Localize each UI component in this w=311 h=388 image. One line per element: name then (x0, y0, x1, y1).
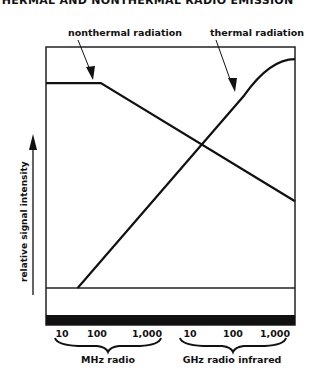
annotation-arrow-nonthermal (78, 40, 95, 80)
plot-frame (46, 47, 295, 325)
x-tick-label: 1,000 (132, 328, 162, 339)
arrowhead-icon (29, 134, 37, 150)
annotation-arrow-thermal (216, 40, 237, 92)
y-axis-label: relative signal intensity (19, 161, 29, 282)
chart: 101001,000101001,000 relative signal int… (0, 0, 311, 388)
band-brace-mhz (55, 338, 161, 352)
x-tick-label: 100 (87, 328, 107, 339)
series-thermal-radiation (78, 59, 295, 288)
frequency-band-bar (46, 315, 295, 325)
x-tick-label: 10 (55, 328, 69, 339)
series-nonthermal-radiation (46, 83, 295, 201)
x-tick-label: 10 (183, 328, 197, 339)
band-label-ghz: GHz radio infrared (183, 354, 282, 365)
y-axis-arrow (29, 134, 37, 295)
annotation-thermal: thermal radiation (210, 27, 304, 38)
x-tick-label: 1,000 (260, 328, 290, 339)
annotation-nonthermal: nonthermal radiation (68, 27, 182, 38)
band-label-mhz: MHz radio (81, 354, 135, 365)
band-brace-ghz (180, 338, 286, 352)
x-tick-label: 100 (223, 328, 243, 339)
